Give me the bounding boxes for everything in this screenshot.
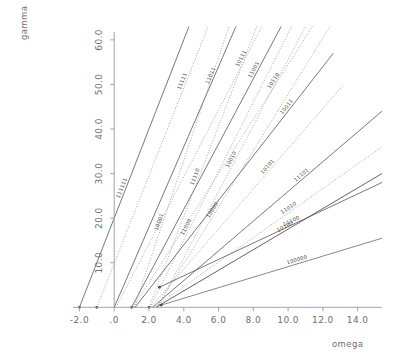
y-tick-label: 40.0: [94, 118, 104, 140]
series-line-10010: [158, 26, 306, 307]
x-tick-label: -2.0: [70, 315, 89, 325]
y-tick-label: 60.0: [94, 29, 104, 51]
y-tick-label: 20.0: [94, 207, 104, 229]
series-label-group: 11000: [179, 217, 192, 236]
series-label-10000: 10000: [205, 200, 219, 218]
series-label-group: 11110: [189, 167, 201, 186]
series-label-group: 11010: [279, 200, 297, 215]
x-tick-label: .0: [110, 315, 119, 325]
y-axis-title: gamma: [19, 6, 29, 40]
series-layer: [78, 26, 382, 308]
x-axis-title: omega: [332, 339, 363, 349]
series-label-10001: 10001: [153, 212, 164, 231]
y-tick-label: 50.0: [94, 74, 104, 96]
origin-marker: [158, 286, 161, 289]
series-label-11010: 11010: [279, 200, 297, 215]
series-label-group: 10010: [224, 150, 238, 169]
series-label-11000: 11000: [179, 217, 192, 236]
series-label-group: 10001: [153, 212, 164, 231]
chart-figure: -2.0.02.04.06.08.010.012.014.010.020.030…: [0, 0, 398, 357]
series-label-10110: 10110: [266, 71, 281, 89]
x-tick-label: 6.0: [211, 315, 227, 325]
series-line-10111: [116, 26, 262, 307]
series-line-10101: [151, 84, 344, 307]
series-line-11111: [97, 26, 208, 307]
x-tick-label: 14.0: [347, 315, 369, 325]
series-line-11110: [149, 26, 257, 307]
x-tick-label: 4.0: [176, 315, 192, 325]
series-label-10111: 10111: [234, 49, 248, 68]
omega-gamma-line-plot: -2.0.02.04.06.08.010.012.014.010.020.030…: [0, 0, 398, 357]
axis-layer: -2.0.02.04.06.08.010.012.014.010.020.030…: [70, 29, 382, 325]
x-tick-label: 10.0: [277, 315, 299, 325]
x-tick-label: 8.0: [246, 315, 262, 325]
x-tick-label: 12.0: [312, 315, 334, 325]
origin-marker: [160, 304, 163, 307]
series-label-group: 10110: [266, 71, 281, 89]
series-line-10100: [156, 174, 382, 308]
y-tick-label: 10.0: [94, 252, 104, 274]
x-tick-label: 2.0: [141, 315, 157, 325]
y-tick-label: 30.0: [94, 163, 104, 185]
series-label-group: 10111: [234, 49, 248, 68]
series-label-11110: 11110: [189, 167, 201, 186]
series-label-group: 10000: [205, 200, 219, 218]
series-label-10010: 10010: [224, 150, 238, 169]
series-line-10110: [133, 26, 312, 307]
series-line-11011: [114, 26, 236, 307]
series-line-10000: [157, 26, 330, 307]
series-line-10011: [135, 53, 333, 307]
